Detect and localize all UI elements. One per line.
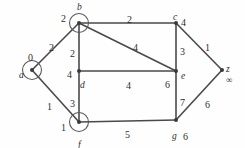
node-a [30, 68, 34, 72]
edge-weight-c-e: 3 [180, 47, 185, 57]
node-f [77, 120, 81, 124]
node-name-e: e [181, 72, 185, 82]
edge-weight-b-d: 2 [70, 49, 75, 59]
edge-weight-c-z: 1 [205, 43, 210, 53]
node-name-g: g [172, 132, 177, 142]
node-distance-label-d: 4 [67, 70, 72, 80]
node-distance-label-g: 6 [183, 132, 188, 142]
edge-f-g [79, 120, 176, 122]
node-d [77, 69, 81, 73]
node-distance-label-a: 0 [28, 53, 33, 63]
node-b [77, 21, 81, 25]
node-distance-label-z: ∞ [226, 76, 232, 85]
node-name-d: d [80, 81, 85, 91]
node-name-f: f [78, 141, 81, 148]
edge-weight-d-f: 3 [70, 99, 75, 109]
edge-weight-g-z: 6 [205, 100, 210, 110]
node-e [174, 69, 178, 73]
edge-b-e [79, 23, 176, 71]
edges-layer [32, 23, 222, 122]
edge-weight-f-g: 5 [125, 130, 130, 140]
graph-figure: 212243143756a0b2c4d4e6f1g6z∞ [0, 0, 245, 148]
edge-weight-b-e: 4 [133, 43, 138, 53]
node-distance-label-e: 6 [165, 80, 170, 90]
edge-weight-a-f: 1 [47, 102, 52, 112]
nodes-layer [23, 14, 225, 132]
node-distance-label-f: 1 [61, 123, 66, 133]
node-name-c: c [173, 13, 177, 23]
node-z [220, 68, 224, 72]
edge-weight-d-e: 4 [126, 81, 131, 91]
graph-canvas [0, 0, 245, 148]
edge-weight-e-g: 7 [180, 98, 185, 108]
node-name-a: a [19, 71, 24, 81]
node-name-b: b [77, 3, 82, 13]
node-g [174, 118, 178, 122]
node-distance-label-b: 2 [61, 14, 66, 24]
edge-weight-a-b: 2 [49, 43, 54, 53]
edge-weight-b-c: 2 [127, 15, 132, 25]
node-name-z: z [226, 65, 230, 75]
node-distance-label-c: 4 [181, 18, 186, 28]
